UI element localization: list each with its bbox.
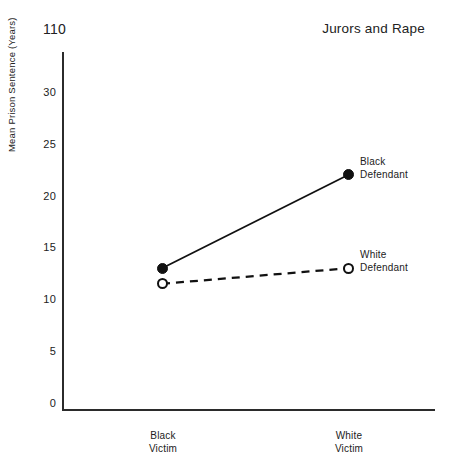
data-point-white-defendant-white-victim[interactable]	[343, 263, 354, 274]
data-point-white-defendant-black-victim[interactable]	[157, 278, 168, 289]
data-point-black-defendant-white-victim[interactable]	[343, 169, 354, 180]
line-chart-figure: Mean Prison Sentence (Years) 30 25 20 15…	[0, 0, 455, 471]
series-line-white-defendant	[162, 268, 348, 284]
data-point-black-defendant-black-victim[interactable]	[157, 263, 168, 274]
series-lines	[0, 0, 455, 471]
series-line-black-defendant	[162, 175, 348, 268]
